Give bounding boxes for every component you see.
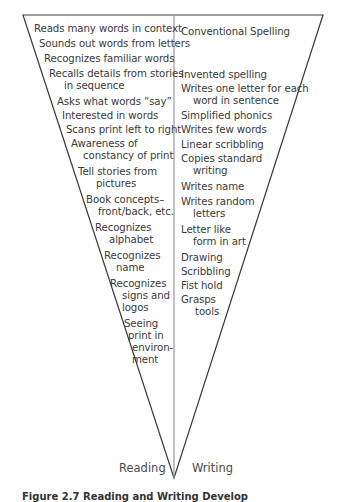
writing-axis-label: Writing	[192, 461, 233, 475]
reading-item: Recognizessigns andlogos	[110, 278, 170, 314]
writing-item: Writes randomletters	[181, 196, 255, 220]
figure-caption: Figure 2.7 Reading and Writing Develop	[22, 491, 248, 502]
reading-item: Tell stories frompictures	[78, 166, 157, 190]
writing-item: Copies standardwriting	[181, 153, 262, 177]
writing-item: Writes few words	[181, 124, 267, 136]
writing-item: Graspstools	[181, 294, 219, 318]
reading-item: Recalls details from storiesin sequence	[49, 68, 183, 92]
reading-item: Seeingprint inenviron-ment	[124, 318, 173, 366]
reading-item: Reads many words in context	[34, 23, 182, 35]
reading-item: Recognizesalphabet	[95, 222, 153, 246]
reading-item: Recognizes familiar words	[44, 53, 174, 65]
reading-item: Sounds out words from letters	[39, 38, 190, 50]
reading-axis-label: Reading	[119, 461, 166, 475]
writing-item: Linear scribbling	[181, 139, 264, 151]
writing-item: Letter likeform in art	[181, 224, 246, 248]
writing-item: Drawing	[181, 252, 223, 264]
reading-item: Recognizesname	[104, 250, 160, 274]
reading-item: Awareness ofconstancy of print	[71, 138, 173, 162]
reading-item: Asks what words “say”	[57, 96, 172, 108]
writing-item: Invented spelling	[181, 69, 267, 81]
writing-item: Simplified phonics	[181, 110, 272, 122]
writing-item: Fist hold	[181, 280, 223, 292]
writing-item: Writes one letter for eachword in senten…	[181, 83, 309, 107]
writing-item: Scribbling	[181, 266, 231, 278]
reading-item: Book concepts–front/back, etc.	[86, 194, 174, 218]
reading-item: Interested in words	[62, 110, 158, 122]
writing-item: Conventional Spelling	[181, 26, 290, 38]
writing-item: Writes name	[181, 181, 244, 193]
reading-item: Scans print left to right	[66, 124, 181, 136]
